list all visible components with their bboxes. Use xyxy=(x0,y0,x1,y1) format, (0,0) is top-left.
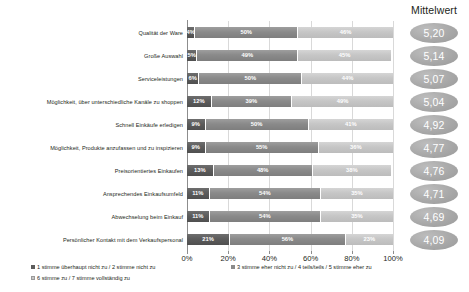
chart-row: Preisorientiertes Einkaufen13%48%38% xyxy=(187,165,393,176)
bar-segment-2: 50% xyxy=(195,27,298,38)
bar-segment-1: 9% xyxy=(187,142,206,153)
bar-segment-2: 54% xyxy=(210,188,321,199)
bar-segment-2: 50% xyxy=(206,119,309,130)
bar-segment-1: 9% xyxy=(187,119,206,130)
mean-value-bubble: 5,14 xyxy=(401,45,467,66)
category-label: Ansprechendes Einkaufsumfeld xyxy=(103,191,183,197)
bar-segment-2: 50% xyxy=(199,73,302,84)
bar-segment-1: 11% xyxy=(187,188,210,199)
bar-segment-1: 6% xyxy=(187,73,199,84)
legend-item-1[interactable]: 1 stimme überhaupt nicht zu / 2 stimme n… xyxy=(31,264,155,270)
mean-value-bubble: 4,92 xyxy=(401,114,467,135)
legend-label: 1 stimme überhaupt nicht zu / 2 stimme n… xyxy=(37,264,155,270)
legend-swatch-icon xyxy=(31,265,35,269)
mean-value: 4,09 xyxy=(410,230,458,250)
segment-value-label: 36% xyxy=(350,145,362,151)
chart-row: Große Auswahl5%49%45% xyxy=(187,50,393,61)
category-label: Möglichkeit, über unterschiedliche Kanäl… xyxy=(47,99,183,105)
category-label: Preisorientiertes Einkaufen xyxy=(115,168,183,174)
segment-value-label: 12% xyxy=(193,99,205,105)
chart-row: Qualität der Ware4%50%46% xyxy=(187,27,393,38)
segment-value-label: 39% xyxy=(246,99,258,105)
stacked-bar: 5%49%45% xyxy=(187,50,393,61)
segment-value-label: 9% xyxy=(192,145,200,151)
chart-row: Serviceleistungen6%50%44% xyxy=(187,73,393,84)
mean-value-bubble: 4,69 xyxy=(401,206,467,227)
legend-swatch-icon xyxy=(231,265,235,269)
bar-segment-1: 13% xyxy=(187,165,214,176)
mean-value: 5,07 xyxy=(410,69,458,89)
segment-value-label: 44% xyxy=(342,76,354,82)
plot-area: Qualität der Ware4%50%46%Große Auswahl5%… xyxy=(187,21,393,251)
bar-segment-3: 44% xyxy=(302,73,393,84)
chart-row: Schnell Einkäufe erledigen9%50%41% xyxy=(187,119,393,130)
bar-segment-3: 35% xyxy=(321,211,393,222)
segment-value-label: 49% xyxy=(241,53,253,59)
bar-segment-3: 46% xyxy=(298,27,393,38)
segment-value-label: 50% xyxy=(245,76,257,82)
segment-value-label: 54% xyxy=(259,191,271,197)
category-label: Große Auswahl xyxy=(144,53,183,59)
stacked-bar-chart: Mittelwert Qualität der Ware4%50%46%Groß… xyxy=(0,0,469,292)
mean-value-bubble: 4,76 xyxy=(401,160,467,181)
segment-value-label: 46% xyxy=(340,30,352,36)
segment-value-label: 56% xyxy=(282,237,294,243)
segment-value-label: 4% xyxy=(187,30,195,36)
segment-value-label: 13% xyxy=(194,168,206,174)
category-label: Qualität der Ware xyxy=(139,30,183,36)
mean-value: 4,71 xyxy=(410,184,458,204)
legend-label: 6 stimme zu / 7 stimme vollständig zu xyxy=(37,275,130,281)
x-axis-label: 40% xyxy=(262,254,277,263)
bar-segment-1: 4% xyxy=(187,27,195,38)
segment-value-label: 11% xyxy=(192,191,203,197)
mean-value: 4,76 xyxy=(410,161,458,181)
mean-value: 4,92 xyxy=(410,115,458,135)
mean-value: 5,04 xyxy=(410,92,458,112)
mean-value: 4,77 xyxy=(410,138,458,158)
stacked-bar: 12%39%49% xyxy=(187,96,393,107)
segment-value-label: 6% xyxy=(188,76,196,82)
bar-segment-1: 5% xyxy=(187,50,197,61)
bar-segment-3: 35% xyxy=(321,188,393,199)
stacked-bar: 9%55%36% xyxy=(187,142,393,153)
x-axis-label: 20% xyxy=(221,254,236,263)
x-axis-label: 0% xyxy=(182,254,193,263)
segment-value-label: 5% xyxy=(187,53,195,59)
x-axis-label: 100% xyxy=(383,254,402,263)
category-label: Schnell Einkäufe erledigen xyxy=(115,122,183,128)
bar-segment-1: 12% xyxy=(187,96,212,107)
mean-value-bubble: 5,04 xyxy=(401,91,467,112)
legend-swatch-icon xyxy=(31,276,35,280)
stacked-bar: 13%48%38% xyxy=(187,165,393,176)
stacked-bar: 11%54%35% xyxy=(187,211,393,222)
bar-segment-2: 48% xyxy=(214,165,313,176)
bar-segment-1: 11% xyxy=(187,211,210,222)
segment-value-label: 54% xyxy=(259,214,271,220)
bar-segment-2: 39% xyxy=(212,96,292,107)
chart-row: Möglichkeit, über unterschiedliche Kanäl… xyxy=(187,96,393,107)
legend-label: 3 stimme eher nicht zu / 4 teils/teils /… xyxy=(237,264,372,270)
segment-value-label: 55% xyxy=(256,145,268,151)
segment-value-label: 9% xyxy=(192,122,200,128)
mean-value: 5,14 xyxy=(410,46,458,66)
mean-value-bubble: 4,71 xyxy=(401,183,467,204)
mean-value-bubble: 4,77 xyxy=(401,137,467,158)
bar-segment-3: 23% xyxy=(346,234,393,245)
legend-item-2[interactable]: 3 stimme eher nicht zu / 4 teils/teils /… xyxy=(231,264,372,270)
chart-row: Persönlicher Kontakt mit dem Verkaufsper… xyxy=(187,234,393,245)
stacked-bar: 9%50%41% xyxy=(187,119,393,130)
bar-segment-3: 41% xyxy=(309,119,393,130)
legend-item-3[interactable]: 6 stimme zu / 7 stimme vollständig zu xyxy=(31,275,130,281)
stacked-bar: 4%50%46% xyxy=(187,27,393,38)
segment-value-label: 49% xyxy=(337,99,349,105)
x-axis: 0%20%40%60%80%100% xyxy=(187,251,393,265)
chart-row: Ansprechendes Einkaufsumfeld11%54%35% xyxy=(187,188,393,199)
bar-segment-3: 45% xyxy=(298,50,391,61)
segment-value-label: 50% xyxy=(251,122,263,128)
mean-value: 4,69 xyxy=(410,207,458,227)
stacked-bar: 21%56%23% xyxy=(187,234,393,245)
mean-column-header: Mittelwert xyxy=(401,4,467,16)
bar-segment-3: 49% xyxy=(292,96,393,107)
segment-value-label: 41% xyxy=(345,122,357,128)
category-label: Möglichkeit, Produkte anzufassen und zu … xyxy=(50,145,183,151)
